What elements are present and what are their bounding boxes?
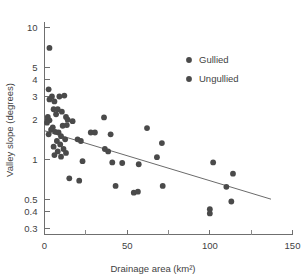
x-tick-label: 100 bbox=[202, 240, 218, 251]
data-point bbox=[207, 211, 213, 217]
y-tick-label: 3 bbox=[32, 91, 37, 102]
y-tick-label: 0.3 bbox=[24, 223, 37, 234]
data-point bbox=[80, 158, 86, 164]
data-point bbox=[92, 130, 98, 136]
data-point bbox=[101, 115, 107, 121]
data-point bbox=[228, 199, 234, 205]
x-axis-tick-labels: 050100150 bbox=[42, 240, 301, 251]
x-axis-title: Drainage area (km²) bbox=[111, 263, 196, 274]
data-point bbox=[46, 86, 52, 92]
data-point bbox=[160, 183, 166, 189]
y-tick-label: 4 bbox=[32, 74, 37, 85]
data-points bbox=[44, 45, 236, 216]
data-point bbox=[52, 99, 58, 105]
data-point bbox=[159, 140, 165, 146]
data-point bbox=[60, 123, 66, 129]
data-point bbox=[223, 184, 229, 190]
data-point bbox=[52, 152, 58, 158]
data-point bbox=[135, 189, 141, 195]
y-tick-label: 0.4 bbox=[24, 206, 37, 217]
data-point bbox=[108, 131, 114, 137]
chart-legend: GulliedUngullied bbox=[186, 54, 239, 84]
data-point bbox=[61, 93, 67, 99]
legend-marker-ungullied bbox=[186, 76, 192, 82]
data-point bbox=[62, 136, 68, 142]
data-point bbox=[51, 144, 57, 150]
data-point bbox=[65, 117, 71, 123]
data-point bbox=[154, 154, 160, 160]
data-point bbox=[53, 111, 59, 117]
data-point bbox=[56, 94, 62, 100]
data-point bbox=[144, 125, 150, 131]
data-point bbox=[66, 175, 72, 181]
y-tick-label: 5 bbox=[32, 62, 37, 73]
data-point bbox=[63, 150, 69, 156]
y-axis-ticks bbox=[45, 27, 50, 228]
axis-lines bbox=[45, 22, 293, 235]
x-tick-label: 0 bbox=[42, 240, 47, 251]
legend-marker-gullied bbox=[186, 57, 192, 63]
data-point bbox=[113, 183, 119, 189]
x-axis-ticks bbox=[45, 230, 293, 235]
y-tick-label: 2 bbox=[32, 114, 37, 125]
x-tick-label: 50 bbox=[122, 240, 133, 251]
data-point bbox=[210, 159, 216, 165]
data-point bbox=[105, 149, 111, 155]
data-point bbox=[230, 171, 236, 177]
data-point bbox=[44, 120, 50, 126]
data-point bbox=[119, 160, 125, 166]
data-point bbox=[76, 178, 82, 184]
legend-label-ungullied: Ungullied bbox=[199, 73, 239, 84]
data-point bbox=[70, 118, 76, 124]
data-point bbox=[78, 138, 84, 144]
data-point bbox=[136, 161, 142, 167]
scatter-plot: 0.30.40.51234510 050100150 GulliedUngull… bbox=[0, 0, 306, 280]
data-point bbox=[47, 97, 53, 103]
x-tick-label: 150 bbox=[285, 240, 301, 251]
y-tick-label: 10 bbox=[27, 22, 38, 33]
data-point bbox=[59, 109, 65, 115]
chart-figure: 0.30.40.51234510 050100150 GulliedUngull… bbox=[0, 0, 306, 280]
legend-label-gullied: Gullied bbox=[199, 54, 229, 65]
y-tick-label: 0.5 bbox=[24, 194, 37, 205]
data-point bbox=[58, 154, 64, 160]
y-axis-tick-labels: 0.30.40.51234510 bbox=[24, 22, 37, 234]
data-point bbox=[109, 159, 115, 165]
y-tick-label: 1 bbox=[32, 154, 37, 165]
y-axis-title: Valley slope (degrees) bbox=[4, 83, 15, 177]
data-point bbox=[46, 131, 52, 137]
data-point bbox=[47, 45, 53, 51]
